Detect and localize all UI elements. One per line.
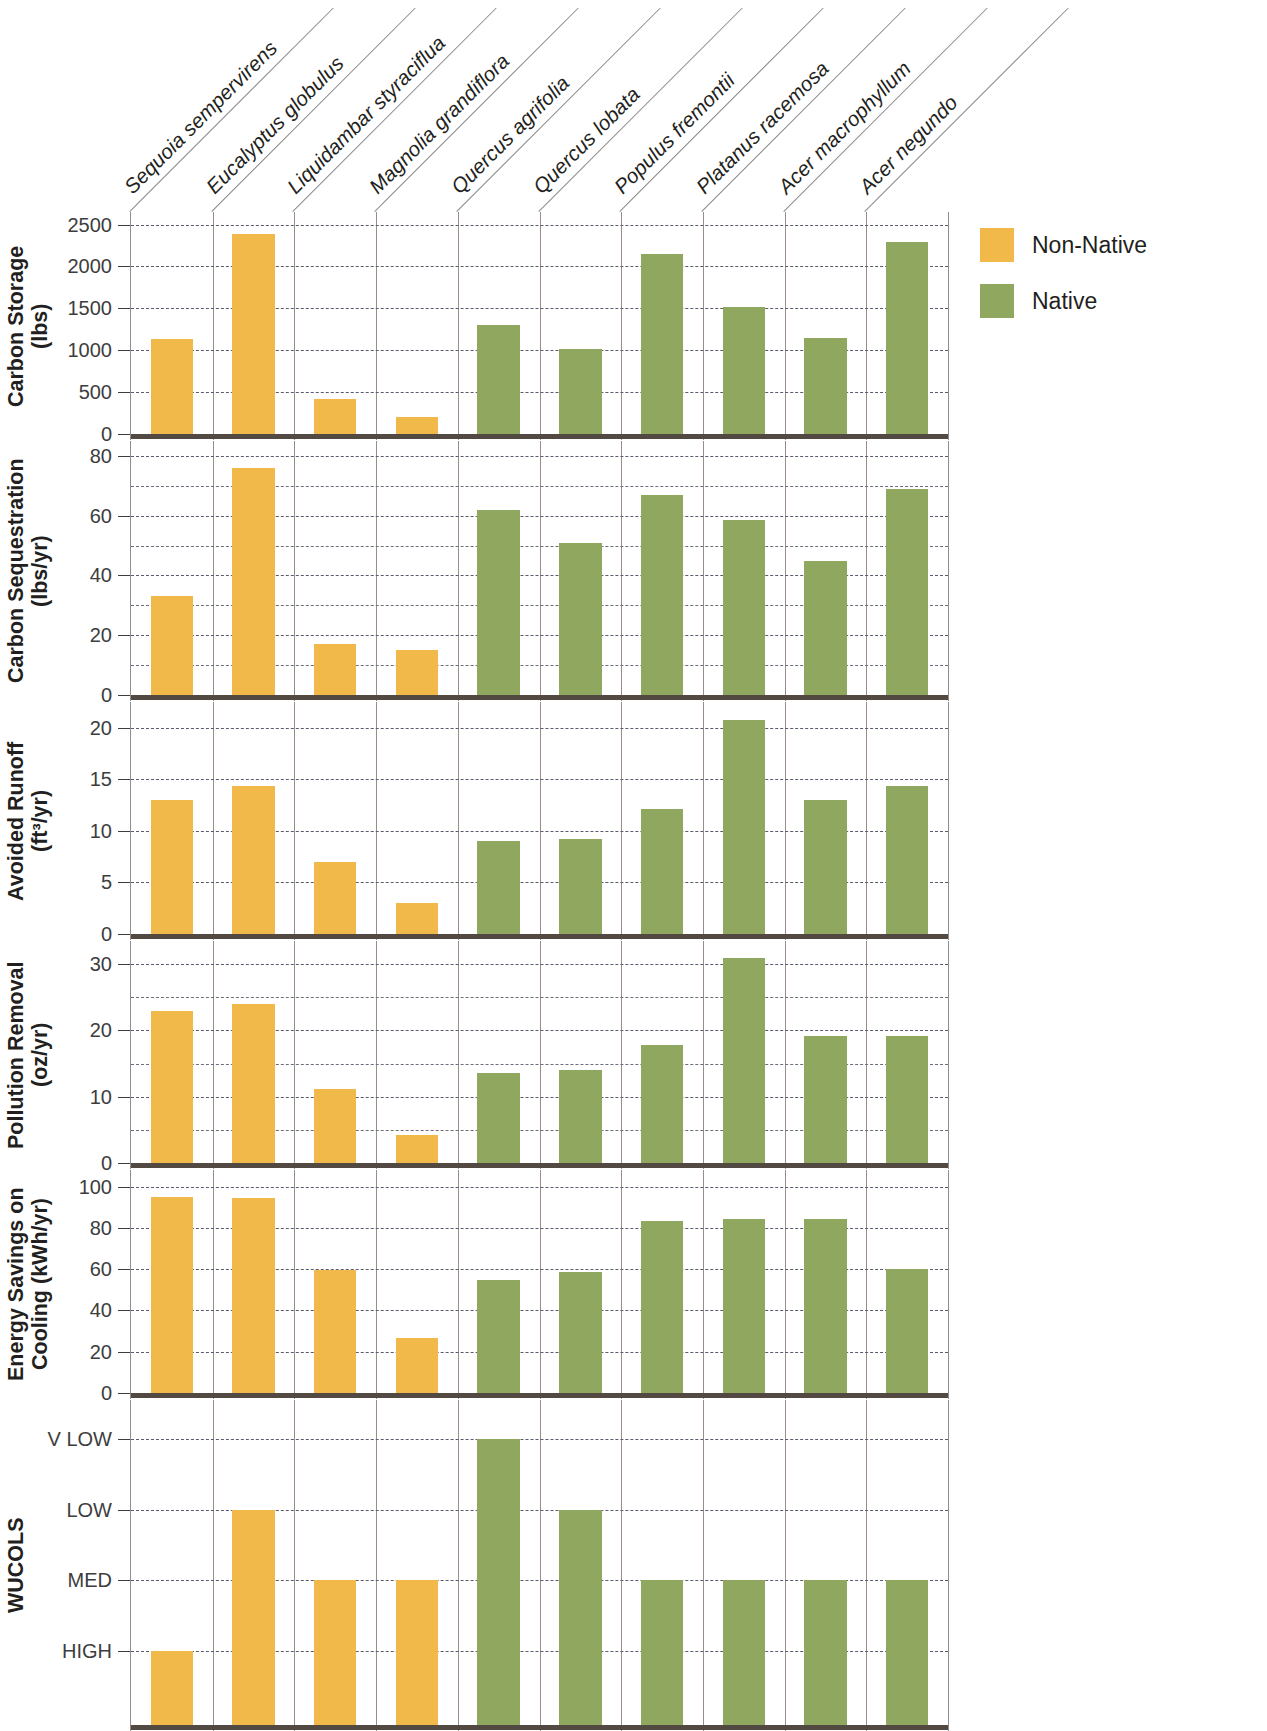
panel-4: Pollution Removal (oz/yr)0102030 [0,941,1267,1169]
bar-3-7 [641,809,683,934]
plot-area [130,941,949,1169]
panel-6: WUCOLSV LOWLOWMEDHIGH [0,1400,1267,1731]
bar-3-9 [804,800,846,934]
bar-4-6 [559,1070,601,1163]
column-separator [866,1400,867,1731]
y-tick-mark [118,392,130,393]
panel-2: Carbon Sequestration (lbs/yr)020406080 [0,441,1267,701]
column-separator [213,702,214,940]
y-tick-mark [118,266,130,267]
column-separator [458,702,459,940]
column-separator [785,441,786,701]
bar-2-3 [314,644,356,695]
y-tick-label: 1000 [68,339,113,362]
bar-4-2 [232,1004,274,1163]
y-tick-mark [118,1510,130,1511]
column-separator [785,1170,786,1399]
panel-baseline [131,1725,948,1730]
y-tick-mark [118,308,130,309]
bar-6-3 [314,1580,356,1725]
bar-2-1 [151,596,193,695]
bar-6-7 [641,1580,683,1725]
bar-4-5 [477,1073,519,1163]
y-tick-mark [118,350,130,351]
bar-3-3 [314,862,356,934]
y-tick-mark [118,456,130,457]
bar-1-8 [723,307,765,434]
legend-swatch-icon [980,284,1014,318]
y-tick-label: 2500 [68,213,113,236]
y-tick-label: 20 [90,1340,112,1363]
y-tick-mark [118,1228,130,1229]
y-tick-label: 60 [90,504,112,527]
y-tick-label: 500 [79,381,112,404]
column-separator [376,212,377,440]
bar-1-2 [232,234,274,434]
y-tick-label: 80 [90,444,112,467]
bar-6-10 [886,1580,928,1725]
panel-y-axis-label: Avoided Runoff (ft³/yr) [4,702,56,940]
plot-area [130,1400,949,1731]
column-separator [294,702,295,940]
bar-4-1 [151,1011,193,1163]
bar-1-10 [886,242,928,434]
y-tick-mark [118,779,130,780]
y-tick-mark [118,1163,130,1164]
bar-6-5 [477,1439,519,1725]
y-tick-label: 40 [90,564,112,587]
y-tick-mark [118,1352,130,1353]
bar-2-9 [804,561,846,695]
panel-baseline [131,934,948,939]
y-tick-mark [118,831,130,832]
gridline-v-low [131,1439,948,1440]
gridline [131,1187,948,1188]
column-separator [703,1400,704,1731]
plot-area [130,212,949,440]
y-tick-label: 2000 [68,255,113,278]
y-tick-label: 80 [90,1216,112,1239]
gridline [131,964,948,965]
bar-6-9 [804,1580,846,1725]
column-separator [376,941,377,1169]
panel-y-axis-label: Energy Savings on Cooling (kWh/yr) [4,1170,56,1399]
y-tick-label: 100 [79,1175,112,1198]
y-tick-label: 60 [90,1258,112,1281]
bar-6-6 [559,1510,601,1725]
panel-baseline [131,1393,948,1398]
column-separator [621,1400,622,1731]
bar-2-4 [396,650,438,695]
bar-2-10 [886,489,928,695]
bar-3-4 [396,903,438,934]
column-separator [458,441,459,701]
gridline-minor [131,997,948,998]
bar-5-10 [886,1269,928,1393]
y-tick-mark [118,1439,130,1440]
y-tick-mark [118,1580,130,1581]
column-separator [458,941,459,1169]
y-tick-label: 20 [90,624,112,647]
species-label-header: Sequoia sempervirensEucalyptus globulusL… [0,0,1267,212]
bar-5-5 [477,1280,519,1393]
y-tick-mark [118,225,130,226]
y-tick-mark [118,1310,130,1311]
panel-y-axis-label: Carbon Sequestration (lbs/yr) [4,441,56,701]
y-tick-mark [118,934,130,935]
bar-3-1 [151,800,193,934]
column-separator [213,941,214,1169]
bar-2-6 [559,543,601,695]
y-tick-mark [118,1030,130,1031]
legend-label: Native [1032,288,1097,315]
column-separator [703,702,704,940]
bar-4-4 [396,1135,438,1163]
bar-6-8 [723,1580,765,1725]
column-separator [376,1170,377,1399]
y-tick-mark [118,1187,130,1188]
column-separator [213,1400,214,1731]
bar-1-6 [559,349,601,434]
panel-5: Energy Savings on Cooling (kWh/yr)020406… [0,1170,1267,1399]
panel-y-axis-label: Pollution Removal (oz/yr) [4,941,56,1169]
gridline [131,728,948,729]
bar-4-10 [886,1036,928,1163]
column-separator [621,702,622,940]
bar-1-1 [151,339,193,435]
